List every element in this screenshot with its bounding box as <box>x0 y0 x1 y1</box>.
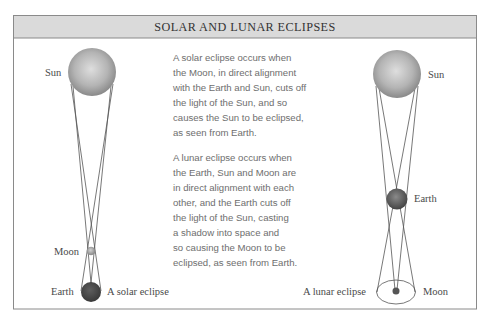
text-line: as seen from Earth. <box>173 125 306 140</box>
text-line: the light of the Sun, and so <box>173 95 306 110</box>
text-line: in direct alignment with each <box>173 180 297 195</box>
lunar-eclipse-description: A lunar eclipse occurs when the Earth, S… <box>173 150 297 270</box>
text-line: the Earth, Sun and Moon are <box>173 165 297 180</box>
text-line: causes the Sun to be eclipsed, <box>173 110 306 125</box>
page-title: SOLAR AND LUNAR ECLIPSES <box>14 16 476 38</box>
text-line: with the Earth and Sun, cuts off <box>173 80 306 95</box>
solar-eclipse-description: A solar eclipse occurs when the Moon, in… <box>173 50 306 140</box>
text-line: the light of the Sun, casting <box>173 210 297 225</box>
sun-icon <box>68 48 116 96</box>
solar-earth-label: Earth <box>51 286 74 298</box>
solar-eclipse-caption: A solar eclipse <box>107 286 169 298</box>
lunar-sun-label: Sun <box>428 69 444 81</box>
solar-sun-label: Sun <box>45 67 61 79</box>
text-line: A lunar eclipse occurs when <box>173 150 297 165</box>
eclipse-infographic: SOLAR AND LUNAR ECLIPSES Sun Moon Earth … <box>0 0 487 322</box>
solar-moon-label: Moon <box>54 246 79 258</box>
lunar-earth-label: Earth <box>414 193 437 205</box>
lunar-eclipse-caption: A lunar eclipse <box>303 286 366 298</box>
text-line: a shadow into space and <box>173 225 297 240</box>
text-line: so causing the Moon to be <box>173 240 297 255</box>
earth-icon <box>387 189 408 210</box>
lunar-moon-label: Moon <box>423 286 448 298</box>
moon-icon <box>393 288 400 295</box>
sun-icon <box>373 50 421 98</box>
text-line: A solar eclipse occurs when <box>173 50 306 65</box>
text-line: eclipsed, as seen from Earth. <box>173 255 297 270</box>
text-line: other, and the Earth cuts off <box>173 195 297 210</box>
earth-icon <box>81 282 101 302</box>
moon-icon <box>87 247 95 255</box>
text-line: the Moon, in direct alignment <box>173 65 306 80</box>
